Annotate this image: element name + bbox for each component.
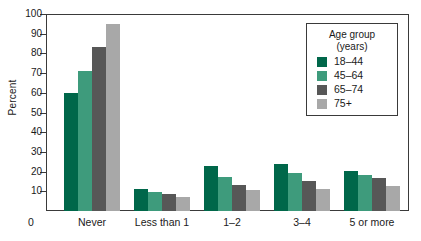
bar-group <box>134 14 190 211</box>
bar <box>204 166 218 211</box>
legend-label: 45–64 <box>334 70 363 81</box>
y-axis-tick-label: 40 <box>16 127 42 137</box>
legend-label: 65–74 <box>334 84 363 95</box>
bar <box>134 189 148 211</box>
legend-color-swatch <box>317 71 327 81</box>
x-axis-tick-label: 5 or more <box>350 216 395 228</box>
x-axis-tick-label: 1–2 <box>223 216 241 228</box>
bar <box>316 189 330 211</box>
bar <box>148 192 162 211</box>
legend-entry: 75+ <box>313 98 391 109</box>
legend: Age group (years) 18–4445–6465–7475+ <box>306 23 398 116</box>
legend-label: 18–44 <box>334 56 363 67</box>
bar <box>162 194 176 211</box>
bar <box>386 186 400 211</box>
legend-entry: 18–44 <box>313 56 391 67</box>
legend-label: 75+ <box>334 98 352 109</box>
legend-subtitle: (years) <box>313 41 391 53</box>
bar <box>176 197 190 211</box>
legend-entry: 45–64 <box>313 70 391 81</box>
legend-title: Age group <box>313 29 391 41</box>
bar <box>288 173 302 211</box>
legend-entries: 18–4445–6465–7475+ <box>313 56 391 109</box>
bar <box>274 164 288 211</box>
legend-color-swatch <box>317 85 327 95</box>
y-axis-tick-label: 80 <box>16 48 42 58</box>
bar <box>92 47 106 211</box>
x-axis-tick-label: Never <box>78 216 106 228</box>
y-axis-zero-label: 0 <box>28 216 34 228</box>
bar <box>358 175 372 211</box>
legend-color-swatch <box>317 99 327 109</box>
bar <box>64 93 78 211</box>
legend-entry: 65–74 <box>313 84 391 95</box>
bar <box>218 177 232 211</box>
y-axis-tick-label: 70 <box>16 68 42 78</box>
x-axis-tick-label: 3–4 <box>293 216 311 228</box>
y-axis-tick-label: 10 <box>16 186 42 196</box>
bar <box>302 181 316 211</box>
y-axis-tick-label: 100 <box>16 9 42 19</box>
bar-chart: Percent 0 102030405060708090100 NeverLes… <box>0 0 421 241</box>
y-axis-tick-label: 60 <box>16 88 42 98</box>
bar-group <box>64 14 120 211</box>
bar <box>78 71 92 211</box>
bar-group <box>204 14 260 211</box>
y-axis-tick-label: 30 <box>16 147 42 157</box>
bar <box>106 24 120 211</box>
bar <box>232 185 246 211</box>
x-axis-tick-label: Less than 1 <box>135 216 189 228</box>
bar <box>372 178 386 211</box>
y-axis-tick-label: 50 <box>16 108 42 118</box>
bar <box>344 171 358 211</box>
y-axis-tick-label: 20 <box>16 167 42 177</box>
y-axis-tick-label: 90 <box>16 29 42 39</box>
legend-color-swatch <box>317 57 327 67</box>
bar <box>246 190 260 211</box>
